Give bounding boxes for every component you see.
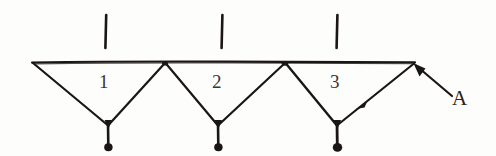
web-member-b1-t1 xyxy=(109,63,166,125)
hanger-arrowhead-2 xyxy=(215,120,222,130)
load-ticks-group xyxy=(105,15,337,48)
pointer-arrow-a-head xyxy=(414,63,426,76)
truss-diagram-svg xyxy=(0,0,496,156)
web-member-t2-b3 xyxy=(286,63,337,125)
hanger-arrowhead-3 xyxy=(334,120,341,130)
point-label-a: A xyxy=(452,88,467,109)
hanger-dot-1 xyxy=(104,143,112,151)
load-tick-3 xyxy=(337,15,338,48)
hanger-dot-3 xyxy=(333,143,342,152)
bay-label-3: 3 xyxy=(330,72,340,91)
hangers-group xyxy=(104,124,342,152)
web-member-b2-t2 xyxy=(219,63,286,125)
load-tick-2 xyxy=(222,15,223,48)
pointer-arrow-a-group xyxy=(414,63,453,96)
joint-blob-t2 xyxy=(282,61,288,65)
bay-label-1: 1 xyxy=(99,72,109,91)
hanger-dot-2 xyxy=(214,143,222,151)
web-member-t0-b1 xyxy=(33,63,108,125)
load-tick-1 xyxy=(105,15,106,48)
joint-blob-t1 xyxy=(162,62,168,66)
bay-label-2: 2 xyxy=(212,72,222,91)
web-member-b3-t3 xyxy=(338,64,415,126)
figure-canvas: 1 2 3 A xyxy=(0,0,496,156)
top-chord-group xyxy=(32,62,415,64)
web-members-group xyxy=(33,63,414,125)
web-member-t1-b2 xyxy=(166,63,218,125)
top-chord-line-shadow xyxy=(36,63,412,64)
